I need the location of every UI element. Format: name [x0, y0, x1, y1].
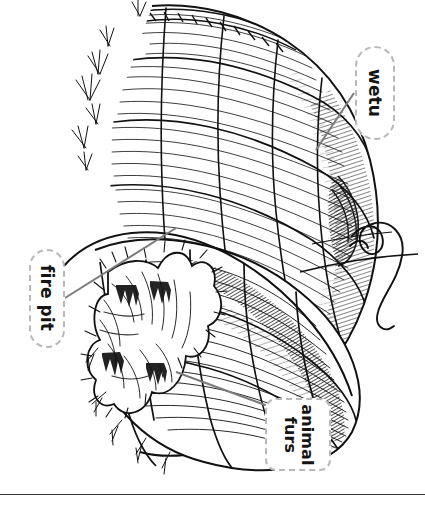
callout-animal-furs-label: animal furs — [281, 404, 315, 466]
callout-fire-pit[interactable]: fire pit — [29, 249, 65, 348]
callout-wetu[interactable]: wetu — [355, 46, 395, 140]
page-canvas: wetu fire pit animal furs — [0, 0, 425, 513]
callout-fire-pit-label: fire pit — [38, 266, 56, 332]
callout-wetu-label: wetu — [366, 69, 384, 117]
page-bottom-rule — [0, 494, 425, 495]
callout-animal-furs[interactable]: animal furs — [265, 398, 331, 471]
callout-animal-furs-line2: furs — [281, 404, 298, 466]
callout-animal-furs-line1: animal — [298, 404, 315, 466]
